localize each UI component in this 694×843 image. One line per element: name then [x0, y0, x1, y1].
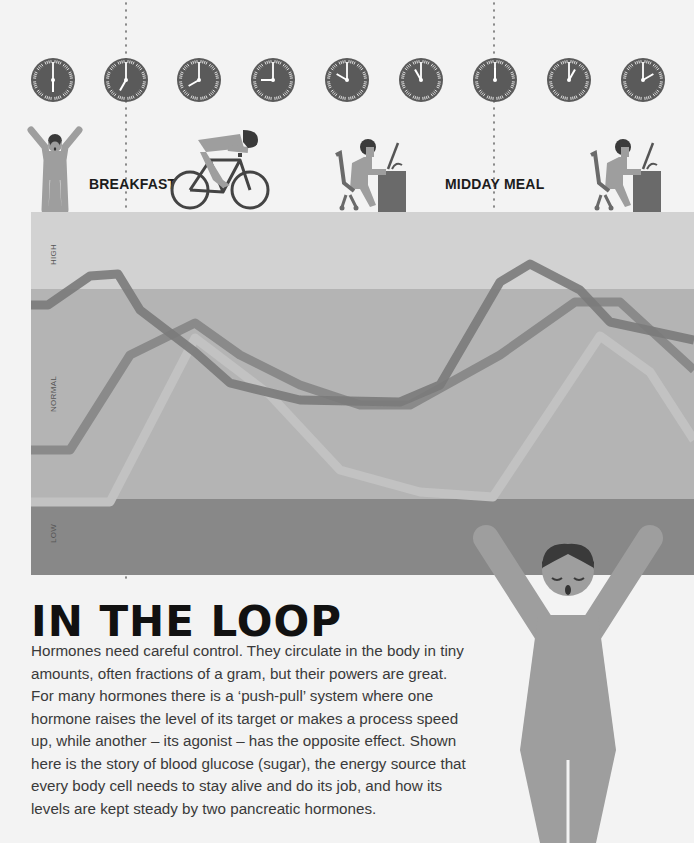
line-medium: [31, 302, 694, 450]
line-dark: [31, 264, 694, 402]
article-body: Hormones need careful control. They circ…: [31, 640, 471, 820]
page-title: IN THE LOOP: [31, 597, 342, 646]
large-tired-figure: [468, 520, 668, 843]
